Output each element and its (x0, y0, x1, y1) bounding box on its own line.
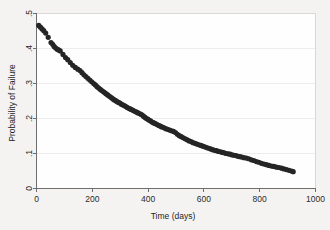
figure-container: 0.1.2.3.4.5 02004006008001000 Time (days… (0, 0, 330, 230)
data-point (46, 35, 51, 40)
plot-area-background (37, 14, 316, 189)
x-tick-label: 200 (85, 194, 99, 204)
x-tick-label: 400 (141, 194, 155, 204)
y-tick-label: .3 (24, 80, 34, 87)
y-tick-label: 0 (24, 186, 34, 191)
y-tick-label: .1 (24, 150, 34, 157)
x-axis-title: Time (days) (151, 211, 196, 221)
data-point (291, 169, 296, 174)
scatter-chart: 0.1.2.3.4.5 02004006008001000 Time (days… (0, 0, 330, 230)
y-axis-tick-labels: 0.1.2.3.4.5 (24, 10, 34, 191)
x-tick-label: 800 (253, 194, 267, 204)
x-tick-label: 0 (34, 194, 39, 204)
x-tick-label: 600 (197, 194, 211, 204)
x-axis-tick-labels: 02004006008001000 (34, 194, 325, 204)
y-tick-label: .2 (24, 115, 34, 122)
y-tick-label: .5 (24, 10, 34, 17)
y-tick-label: .4 (24, 45, 34, 52)
y-axis-title: Probability of Failure (7, 64, 17, 142)
x-tick-label: 1000 (306, 194, 325, 204)
